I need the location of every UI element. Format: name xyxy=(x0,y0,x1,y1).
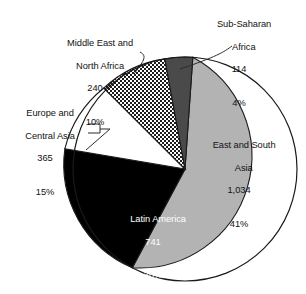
slice-label-name-line1: Europe and xyxy=(26,108,74,118)
slice-label-name-line2: Central Asia xyxy=(25,131,75,141)
slice-label-value: 365 xyxy=(2,153,88,164)
slice-label-percent: 15% xyxy=(2,187,88,198)
slice-label-europe-and-central-asia: Europe and Central Asia 365 15% xyxy=(2,97,88,220)
slice-label-percent: 41% xyxy=(193,219,285,230)
slice-label-name-line1: East and South xyxy=(213,140,276,150)
slice-label-value: 240 xyxy=(32,83,158,94)
slice-label-percent: 30% xyxy=(104,270,202,281)
slice-label-sub-saharan-africa: Sub-Saharan Africa 114 4% xyxy=(196,8,282,131)
slice-label-name-line2: Asia xyxy=(235,163,253,173)
slice-label-name-line2: Africa xyxy=(232,42,255,52)
slice-label-percent: 4% xyxy=(196,98,282,109)
slice-label-name-line1: Sub-Saharan xyxy=(217,19,271,29)
slice-label-name-line1: Latin America xyxy=(130,214,186,224)
slice-label-latin-america: Latin America 741 30% xyxy=(104,203,202,294)
slice-label-name-line1: Middle East and xyxy=(67,38,133,48)
pie-chart-figure: Sub-Saharan Africa 114 4% Middle East an… xyxy=(0,0,306,294)
slice-label-value: 741 xyxy=(104,237,202,248)
slice-label-value: 114 xyxy=(196,64,282,75)
slice-label-east-and-south-asia: East and South Asia 1,034 41% xyxy=(193,129,285,252)
slice-label-value: 1,034 xyxy=(193,185,285,196)
slice-label-name-line2: North Africa xyxy=(76,61,124,71)
